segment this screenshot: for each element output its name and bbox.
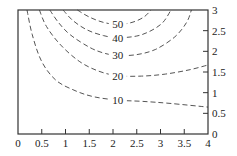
x-tick-label: 1.5 [82,137,96,149]
x-tick-label: 2.5 [130,137,144,149]
x-tick-label: 4 [205,137,211,149]
y-tick-label: 1.5 [212,66,226,78]
contour-label-50: 50 [112,18,124,30]
x-tick-label: 3.5 [177,137,191,149]
contour-label-40: 40 [112,32,124,44]
contour-labels: 1020304050 [109,18,127,106]
y-tick-label: 3 [212,4,218,16]
y-tick-label: 1 [212,87,218,99]
y-tick-label: 0 [212,128,218,140]
contour-label-10: 10 [112,94,124,106]
x-tick-label: 1 [63,137,69,149]
y-tick-label: 2 [212,45,218,57]
contour-label-20: 20 [112,70,124,82]
y-axis-ticks: 00.511.522.53 [203,4,226,140]
contour-chart: 1020304050 00.511.522.533.54 00.511.522.… [0,0,237,156]
y-tick-label: 2.5 [212,25,226,37]
x-tick-label: 0 [15,137,21,149]
x-axis-ticks: 00.511.522.533.54 [15,129,211,149]
x-tick-label: 0.5 [35,137,49,149]
y-tick-label: 0.5 [212,107,226,119]
x-tick-label: 2 [110,137,116,149]
x-tick-label: 3 [158,137,164,149]
contour-label-30: 30 [112,49,124,61]
